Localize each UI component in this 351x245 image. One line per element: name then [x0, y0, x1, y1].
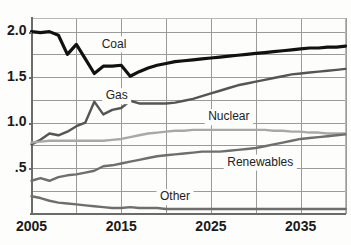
- x-axis-tick-labels: 2005201520252035: [16, 218, 317, 234]
- y-tick-label-1p0: 1.0: [7, 113, 27, 129]
- y-axis-tick-labels: 2.01.51.0.5: [7, 22, 31, 174]
- series-labels-group: CoalGasNuclearRenewablesOther: [98, 36, 297, 205]
- line-chart: CoalGasNuclearRenewablesOther 2.01.51.0.…: [0, 0, 351, 245]
- y-tick-label-p5: .5: [15, 159, 27, 175]
- series-line-coal: [32, 32, 346, 77]
- x-tick-label-2035: 2035: [285, 218, 316, 234]
- series-label-other: Other: [160, 189, 190, 203]
- series-label-gas: Gas: [106, 88, 128, 102]
- series-label-nuclear: Nuclear: [208, 109, 249, 123]
- x-tick-label-2015: 2015: [106, 218, 137, 234]
- series-line-nuclear: [32, 130, 346, 143]
- gridlines-horizontal: [32, 33, 346, 192]
- series-label-coal: Coal: [102, 37, 127, 51]
- y-tick-label-2p0: 2.0: [7, 22, 27, 38]
- data-series-group: [32, 32, 346, 209]
- x-tick-label-2025: 2025: [195, 218, 226, 234]
- y-tick-label-1p5: 1.5: [7, 68, 27, 84]
- chart-container: CoalGasNuclearRenewablesOther 2.01.51.0.…: [0, 0, 351, 245]
- series-label-renewables: Renewables: [227, 155, 293, 169]
- series-line-gas: [32, 69, 346, 144]
- x-tick-label-2005: 2005: [16, 218, 47, 234]
